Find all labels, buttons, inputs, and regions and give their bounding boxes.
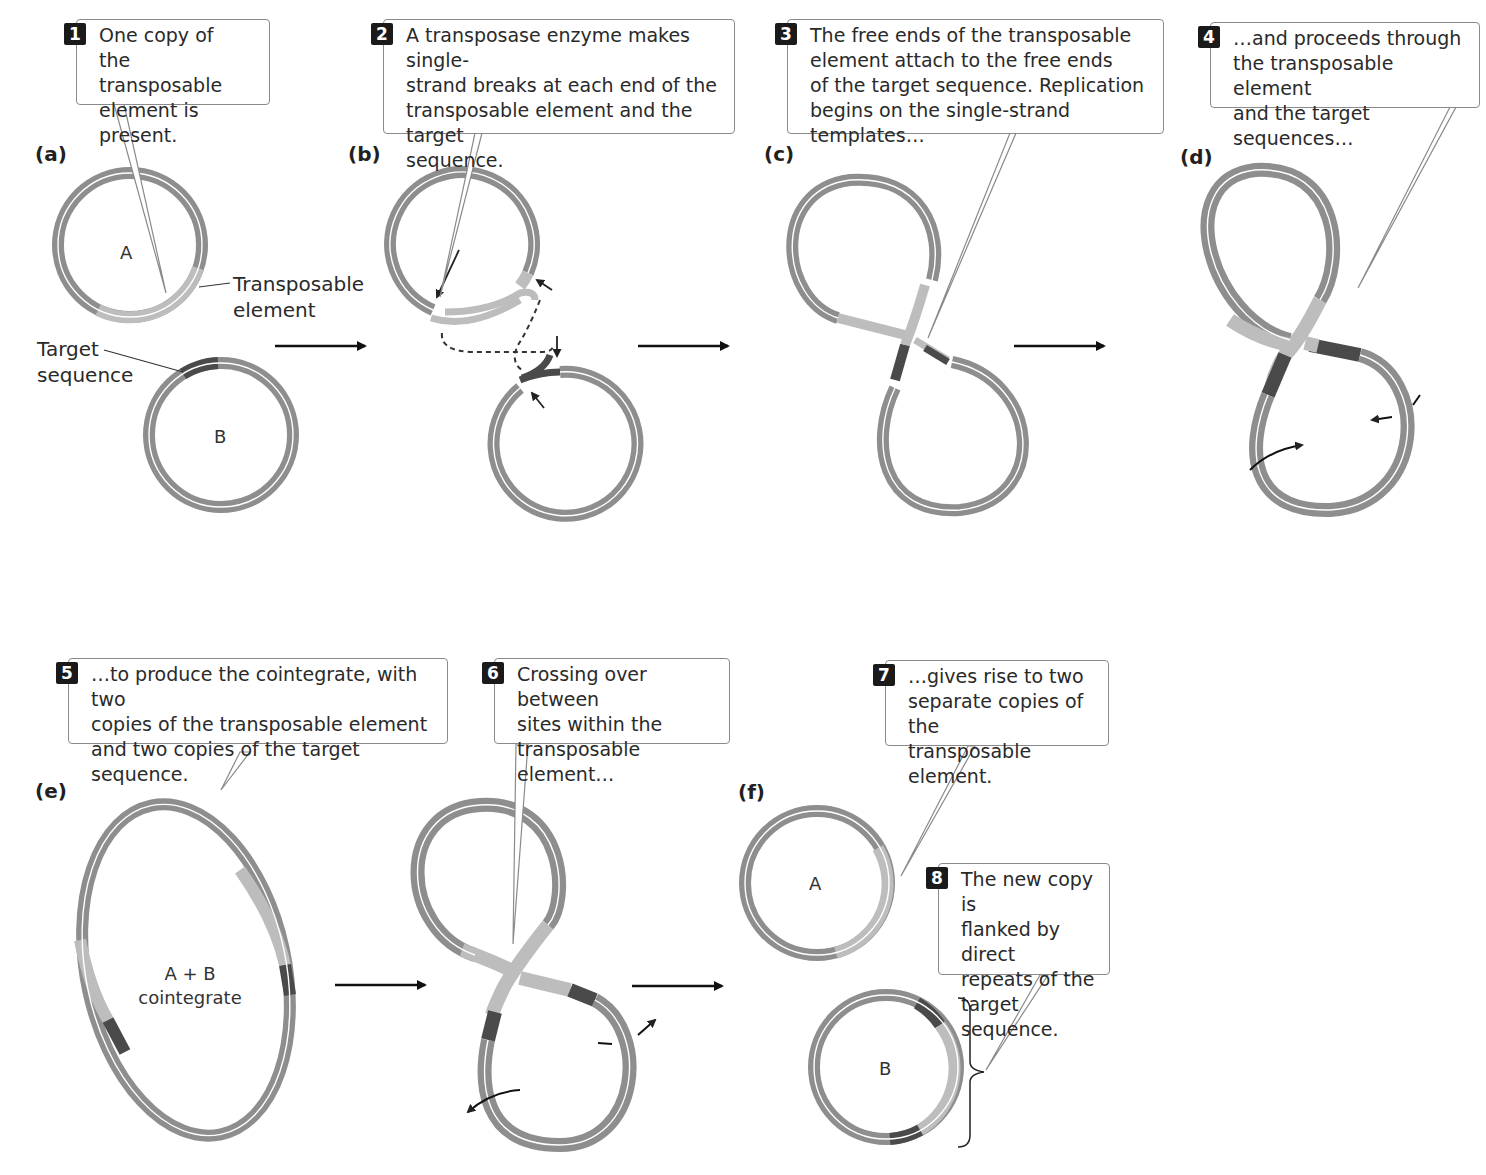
step-text-4: …and proceeds through the transposable e… (1233, 26, 1469, 151)
callout-step-5: 5 …to produce the cointegrate, with two … (68, 658, 448, 744)
step-text-3: The free ends of the transposable elemen… (810, 23, 1153, 148)
callout-step-8: 8 The new copy is flanked by direct repe… (938, 863, 1110, 975)
callout-step-6: 6 Crossing over between sites within the… (494, 658, 730, 744)
panel-b-plasmid-b (494, 355, 638, 516)
step-badge-5: 5 (56, 662, 78, 684)
callout-step-1: 1 One copy of the transposable element i… (76, 19, 270, 105)
callout-3-pointer (928, 133, 1016, 338)
step-text-5: …to produce the cointegrate, with two co… (91, 662, 437, 787)
dashed-path-1 (442, 333, 553, 352)
step-badge-8: 8 (926, 867, 948, 889)
panel-label-d: (d) (1180, 145, 1213, 169)
callout-step-4: 4 …and proceeds through the transposable… (1210, 22, 1480, 108)
transposable-element-label: Transposable element (233, 271, 364, 323)
panel-d-figure-eight (1208, 170, 1408, 510)
target-sequence-label: Target sequence (37, 336, 133, 388)
break-arrow-4 (532, 393, 544, 408)
step-badge-6: 6 (482, 662, 504, 684)
callout-step-7: 7 …gives rise to two separate copies of … (885, 660, 1109, 746)
panel-c-figure-eight (792, 180, 1023, 511)
callout-step-3: 3 The free ends of the transposable elem… (787, 19, 1164, 134)
step-text-1: One copy of the transposable element is … (99, 23, 259, 148)
panel-label-b: (b) (348, 142, 381, 166)
te-leader-line (199, 283, 230, 287)
cointegrate-label: A + B cointegrate (130, 962, 250, 1010)
plasmid-a-label: A (120, 241, 132, 265)
plasmid-b-final-label: B (879, 1057, 891, 1081)
panel-label-f: (f) (738, 780, 765, 804)
step-text-8: The new copy is flanked by direct repeat… (961, 867, 1099, 1042)
step-text-7: …gives rise to two separate copies of th… (908, 664, 1098, 789)
callout-step-2: 2 A transposase enzyme makes single- str… (383, 19, 735, 134)
strand-tick (1413, 395, 1420, 405)
replication-arrow-2 (1372, 417, 1392, 420)
panel-label-c: (c) (764, 142, 794, 166)
resolution-arrow-2 (638, 1020, 655, 1035)
plasmid-a-final-label: A (809, 872, 821, 896)
panel-e-crossover-figure-eight (418, 805, 630, 1145)
step-badge-1: 1 (64, 23, 86, 45)
plasmid-b-label: B (214, 425, 226, 449)
step-badge-4: 4 (1198, 26, 1220, 48)
panel-label-e: (e) (35, 779, 67, 803)
step-text-6: Crossing over between sites within the t… (517, 662, 719, 787)
dashed-path-2 (515, 300, 540, 370)
step-badge-2: 2 (371, 23, 393, 45)
step-badge-7: 7 (873, 664, 895, 686)
step-text-2: A transposase enzyme makes single- stran… (406, 23, 724, 173)
strand-tick-2 (598, 1043, 612, 1044)
step-badge-3: 3 (775, 23, 797, 45)
break-arrow-2 (537, 280, 552, 290)
panel-label-a: (a) (35, 142, 67, 166)
